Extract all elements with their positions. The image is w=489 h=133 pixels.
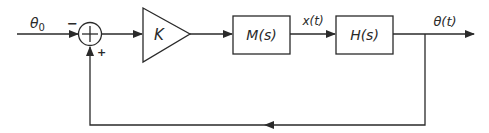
plus-sign: + [97,46,106,59]
input-label: θ0 [30,15,45,33]
output-label: θ(t) [433,14,456,29]
m-block-label: M(s) [246,27,276,43]
feedback-arrow-icon [264,121,274,129]
gain-block [143,8,190,62]
minus-sign: − [67,16,78,31]
h-block-label: H(s) [350,27,379,43]
feedback-input-arrow-icon [86,46,94,56]
feedback-path [86,34,425,129]
intermediate-signal-label: x(t) [301,14,323,28]
gain-label: K [154,26,165,44]
summing-junction [79,23,102,46]
block-diagram: θ0 − + K M(s) x(t) H(s) θ(t) [0,0,489,133]
